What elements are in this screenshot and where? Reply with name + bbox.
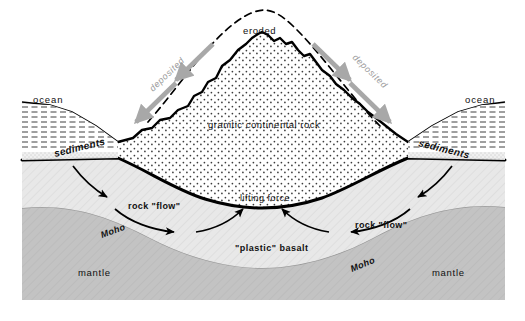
label-ocean-left: ocean bbox=[33, 94, 63, 105]
label-rock-flow-left: rock "flow" bbox=[128, 201, 180, 211]
label-rock-flow-right: rock "flow" bbox=[355, 220, 407, 230]
label-eroded: eroded bbox=[243, 25, 276, 36]
label-granitic-continental-rock: granitic continental rock bbox=[208, 119, 320, 130]
label-mantle-right: mantle bbox=[432, 267, 465, 278]
label-plastic-basalt: "plastic" basalt bbox=[235, 243, 309, 253]
label-mantle-left: mantle bbox=[78, 267, 111, 278]
geology-cross-section-figure: ocean ocean sediments sediments eroded d… bbox=[0, 0, 525, 321]
label-ocean-right: ocean bbox=[465, 94, 495, 105]
label-lifting-force: lifting force bbox=[240, 193, 290, 203]
